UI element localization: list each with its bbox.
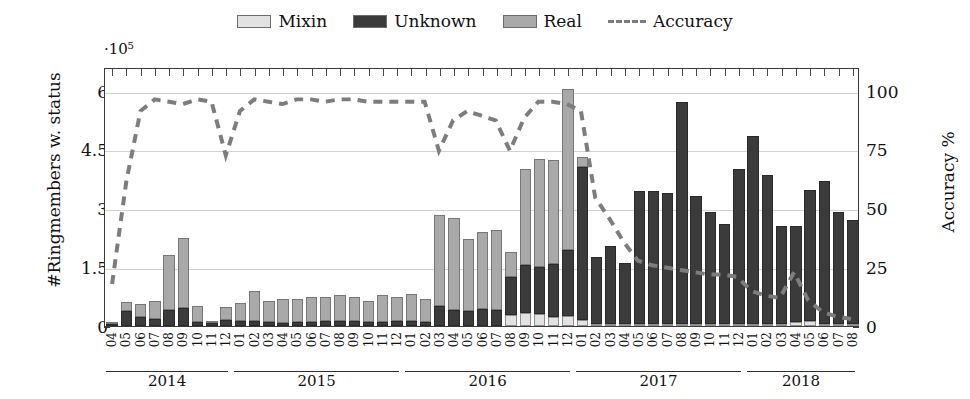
y-axis-title-left: #Ringmembers w. status — [44, 30, 64, 330]
x-tick-label: 10 — [532, 332, 546, 347]
x-tick-label: 03 — [433, 332, 447, 347]
x-tick-label: 07 — [490, 332, 504, 347]
x-tick-label: 01 — [746, 332, 760, 347]
x-tick-label: 06 — [646, 332, 660, 347]
x-tick-label: 09 — [689, 332, 703, 347]
legend-swatch-unknown — [353, 15, 387, 28]
year-group: 2016 — [405, 371, 570, 385]
y-tick-label-left: 6 — [38, 82, 108, 102]
legend-item-unknown: Unknown — [353, 13, 476, 30]
x-tick-label: 04 — [276, 332, 290, 347]
x-tick-label: 06 — [305, 332, 319, 347]
y-tick-label-right: 0 — [866, 317, 926, 337]
x-tick-label: 04 — [618, 332, 632, 347]
year-group: 2018 — [747, 371, 855, 385]
x-tick-label: 08 — [675, 332, 689, 347]
y-tick-label-left: 3 — [38, 199, 108, 219]
chart-figure: Mixin Unknown Real Accuracy #Ringmembers… — [0, 0, 970, 399]
x-tick-label: 09 — [176, 332, 190, 347]
y-tick-mark-left — [104, 327, 110, 328]
year-group-label: 2015 — [234, 372, 399, 390]
x-tick-label: 12 — [561, 332, 575, 347]
chart-legend: Mixin Unknown Real Accuracy — [0, 8, 970, 34]
x-tick-label: 02 — [760, 332, 774, 347]
x-tick-label: 02 — [248, 332, 262, 347]
x-tick-label: 08 — [846, 332, 860, 347]
legend-label-unknown: Unknown — [394, 13, 476, 30]
x-tick-label: 01 — [575, 332, 589, 347]
year-group: 2014 — [106, 371, 228, 385]
x-tick-label: 11 — [547, 332, 561, 347]
legend-label-real: Real — [544, 13, 582, 30]
x-tick-label: 05 — [461, 332, 475, 347]
legend-swatch-mixin — [237, 15, 271, 28]
y-tick-label-right: 100 — [866, 82, 926, 102]
year-group-label: 2017 — [576, 372, 741, 390]
legend-label-accuracy: Accuracy — [653, 13, 733, 30]
x-tick-label: 07 — [832, 332, 846, 347]
x-tick-label: 03 — [262, 332, 276, 347]
y-tick-mark-right — [853, 327, 859, 328]
year-group-label: 2014 — [106, 372, 228, 390]
x-tick-label: 05 — [290, 332, 304, 347]
x-tick-label: 11 — [376, 332, 390, 347]
x-tick-label: 12 — [390, 332, 404, 347]
x-tick-label: 05 — [803, 332, 817, 347]
legend-dash-accuracy — [608, 20, 646, 23]
x-tick-label: 05 — [119, 332, 133, 347]
x-tick-label: 04 — [105, 332, 119, 347]
legend-swatch-real — [503, 15, 537, 28]
x-tick-label: 05 — [632, 332, 646, 347]
legend-item-accuracy: Accuracy — [608, 13, 733, 30]
y-tick-label-right: 25 — [866, 258, 926, 278]
y-tick-label-left: 1.5 — [38, 258, 108, 278]
x-tick-label: 08 — [504, 332, 518, 347]
x-tick-label: 11 — [205, 332, 219, 347]
x-tick-label: 12 — [219, 332, 233, 347]
year-group: 2017 — [576, 371, 741, 385]
legend-label-mixin: Mixin — [278, 13, 327, 30]
plot-area — [104, 68, 859, 327]
x-tick-label: 08 — [162, 332, 176, 347]
legend-item-real: Real — [503, 13, 582, 30]
x-tick-label: 02 — [419, 332, 433, 347]
year-group-label: 2018 — [747, 372, 855, 390]
x-tick-label: 04 — [447, 332, 461, 347]
y-axis-title-right: Accuracy % — [938, 32, 958, 332]
y-tick-label-left: 4.5 — [38, 140, 108, 160]
legend-item-mixin: Mixin — [237, 13, 327, 30]
x-tick-label: 11 — [718, 332, 732, 347]
year-group: 2015 — [234, 371, 399, 385]
x-tick-label: 12 — [732, 332, 746, 347]
x-tick-label: 03 — [604, 332, 618, 347]
accuracy-line — [105, 69, 858, 326]
x-tick-label: 03 — [775, 332, 789, 347]
x-tick-label: 04 — [789, 332, 803, 347]
x-tick-label: 01 — [233, 332, 247, 347]
y-tick-label-right: 50 — [866, 199, 926, 219]
x-tick-label: 10 — [362, 332, 376, 347]
x-tick-label: 07 — [661, 332, 675, 347]
year-group-label: 2016 — [405, 372, 570, 390]
x-tick-label: 09 — [347, 332, 361, 347]
x-tick-label: 10 — [703, 332, 717, 347]
x-tick-label: 10 — [191, 332, 205, 347]
x-tick-label: 06 — [134, 332, 148, 347]
x-tick-label: 01 — [404, 332, 418, 347]
x-tick-label: 07 — [148, 332, 162, 347]
y-tick-label-right: 75 — [866, 140, 926, 160]
x-tick-label: 06 — [817, 332, 831, 347]
x-tick-label: 08 — [333, 332, 347, 347]
x-tick-label: 06 — [476, 332, 490, 347]
x-tick-label: 02 — [589, 332, 603, 347]
y-axis-multiplier: ·10⁵ — [104, 40, 134, 58]
x-tick-label: 09 — [518, 332, 532, 347]
y-tick-label-left: 0 — [38, 317, 108, 337]
x-tick-label: 07 — [319, 332, 333, 347]
